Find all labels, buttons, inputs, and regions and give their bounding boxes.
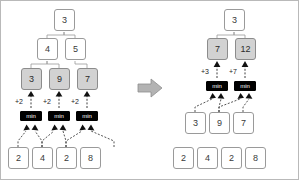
delta-label-2: +2 [71, 98, 79, 105]
node-l2-1: 12 [235, 38, 256, 60]
node-leaf-1: 4 [32, 147, 53, 169]
figure-canvas: 3 4 5 3 9 7 +2 +2 +2 min min min 2 4 2 8 [0, 0, 299, 180]
min-box-0: min [206, 81, 228, 91]
node-l3-0: 3 [185, 112, 206, 134]
delta-label-0: +3 [201, 68, 209, 75]
delta-label-1: +7 [229, 68, 237, 75]
node-l3-1: 9 [49, 68, 70, 90]
min-box-0: min [20, 111, 42, 121]
after-state-panel: 3 7 12 +3 +7 min min 3 9 7 2 4 2 8 [159, 1, 299, 180]
node-l2-0: 7 [207, 38, 228, 60]
node-l2-1: 5 [65, 38, 86, 60]
min-box-2: min [76, 111, 98, 121]
node-l3-1: 9 [209, 112, 230, 134]
node-leaf-0: 2 [8, 147, 29, 169]
delta-label-0: +2 [15, 98, 23, 105]
node-leaf-3: 8 [245, 147, 266, 169]
node-l3-2: 7 [77, 68, 98, 90]
node-l3-2: 7 [233, 112, 254, 134]
min-box-1: min [234, 81, 256, 91]
min-box-1: min [48, 111, 70, 121]
node-leaf-0: 2 [173, 147, 194, 169]
node-l2-0: 4 [37, 38, 58, 60]
node-root: 3 [224, 9, 245, 31]
node-leaf-2: 2 [221, 147, 242, 169]
node-root: 3 [54, 9, 75, 31]
before-state-panel: 3 4 5 3 9 7 +2 +2 +2 min min min 2 4 2 8 [1, 1, 141, 180]
node-l3-0: 3 [21, 68, 42, 90]
delta-label-1: +2 [43, 98, 51, 105]
node-leaf-1: 4 [197, 147, 218, 169]
node-leaf-2: 2 [56, 147, 77, 169]
node-leaf-3: 8 [80, 147, 101, 169]
